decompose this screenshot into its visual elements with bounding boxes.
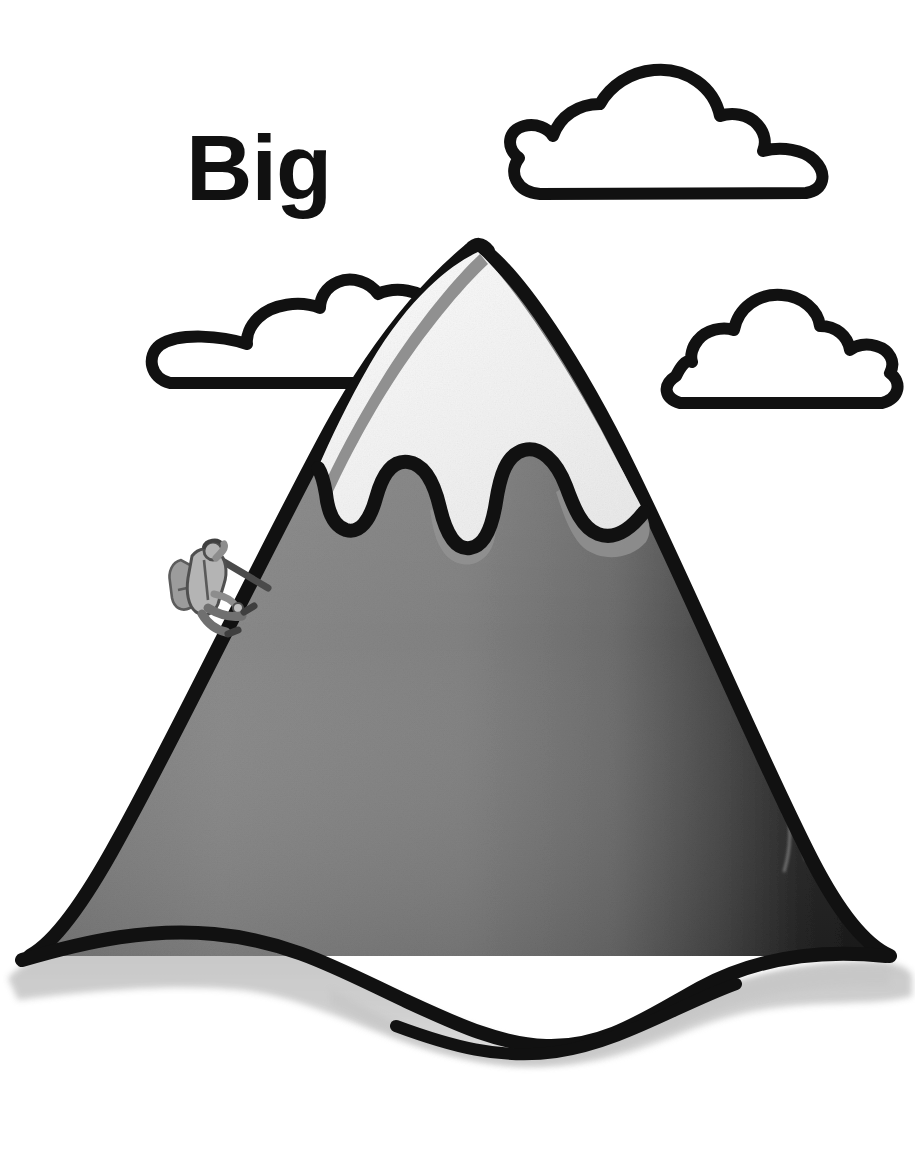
climber-boot-lower xyxy=(228,630,238,634)
illustration-page: Big xyxy=(0,0,915,1175)
mountain-illustration xyxy=(0,0,915,1175)
mountain-peak-cap xyxy=(470,245,488,251)
word-label: Big xyxy=(186,122,331,214)
